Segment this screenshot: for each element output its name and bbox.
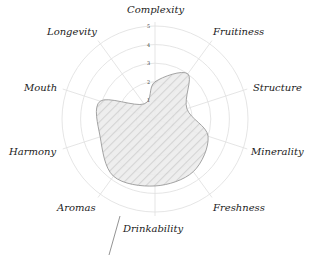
axis-label-mouth: Mouth [24,82,57,93]
tick-label-4: 4 [147,42,150,48]
cursor-line [109,216,120,255]
axis-label-minerality: Minerality [251,146,304,157]
tick-label-1: 1 [147,97,150,103]
axis-label-longevity: Longevity [47,26,97,37]
tick-label-2: 2 [147,79,150,85]
axis-label-freshness: Freshness [213,202,265,213]
axis-label-complexity: Complexity [127,4,184,15]
radar-chart [0,0,312,258]
axis-label-aromas: Aromas [57,202,96,213]
axis-label-harmony: Harmony [9,146,56,157]
axis-label-drinkability: Drinkability [123,223,183,234]
axis-label-structure: Structure [253,82,302,93]
tick-label-3: 3 [147,60,150,66]
data-area [96,72,208,186]
tick-label-5: 5 [147,23,150,29]
axis-label-fruitiness: Fruitiness [213,26,264,37]
